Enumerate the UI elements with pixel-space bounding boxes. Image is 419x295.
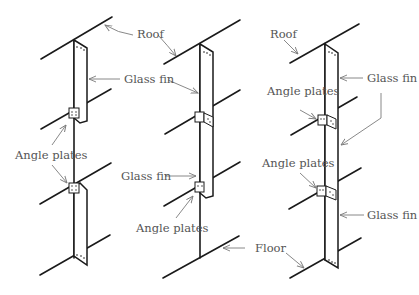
right-panel <box>284 24 381 278</box>
label-angle-plates: Angle plates <box>262 158 334 170</box>
left-panel <box>40 17 133 275</box>
angle-plate <box>195 112 204 122</box>
leader-glass-fin-upper-2 <box>341 93 381 145</box>
leader-angle-plates <box>176 196 193 218</box>
floor-beam <box>163 236 239 278</box>
angle-plate <box>195 182 204 192</box>
label-glass-fin: Glass fin <box>121 171 171 183</box>
label-angle-plates: Angle plates <box>267 86 339 98</box>
leader-roof <box>105 25 133 35</box>
angle-plate <box>317 186 326 196</box>
leader-angle-plates-upper <box>300 110 316 119</box>
label-glass-fin: Glass fin <box>367 210 417 222</box>
leader-roof <box>284 40 298 54</box>
label-floor: Floor <box>255 243 286 255</box>
leader-angle-plates-down <box>52 165 67 183</box>
glass-fin-diagram: Roof Glass fin Angle plates Glass fin An… <box>0 0 419 295</box>
angle-plate <box>318 115 327 125</box>
label-roof: Roof <box>137 29 164 41</box>
label-glass-fin: Glass fin <box>124 74 174 86</box>
label-glass-fin: Glass fin <box>367 73 417 85</box>
angle-plate <box>69 183 79 193</box>
label-roof: Roof <box>270 29 297 41</box>
leader-angle-plates-lower <box>300 173 316 188</box>
label-angle-plates: Angle plates <box>136 223 208 235</box>
angle-plate <box>69 108 79 118</box>
leader-angle-plates-up <box>52 125 66 145</box>
middle-panel <box>158 20 245 278</box>
leader-floor <box>286 253 304 268</box>
label-angle-plates: Angle plates <box>15 150 87 162</box>
glass-fin <box>74 183 87 265</box>
